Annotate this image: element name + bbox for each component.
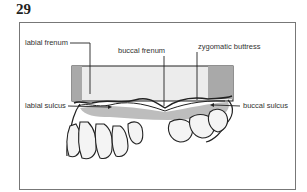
- label-zygomatic-buttress: zygomatic buttress: [198, 42, 261, 51]
- label-buccal-sulcus: buccal sulcus: [243, 101, 288, 110]
- front-teeth: [67, 122, 143, 159]
- label-buccal-frenum: buccal frenum: [118, 46, 165, 55]
- dental-arch-illustration: [0, 0, 307, 192]
- label-labial-sulcus: labial sulcus: [25, 101, 66, 110]
- label-labial-frenum: labial frenum: [25, 38, 68, 47]
